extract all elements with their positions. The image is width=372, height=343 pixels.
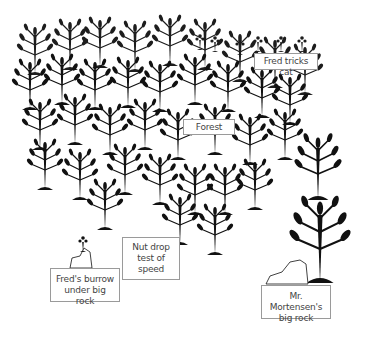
freds-rock	[70, 248, 92, 268]
label-line: Mr. Mortensen's	[265, 291, 327, 313]
label-line: big rock	[265, 313, 327, 324]
label-fred-tricks-cat: Fred tricks cat	[254, 53, 318, 70]
label-nut-drop: Nut drop test of speed	[122, 237, 180, 280]
label-line: under big rock	[54, 285, 116, 307]
label-forest: Forest	[183, 119, 235, 135]
label-text: Forest	[196, 122, 222, 132]
label-line: speed	[126, 264, 176, 275]
mortensen-rock	[266, 260, 308, 284]
label-freds-burrow: Fred's burrow under big rock	[50, 268, 120, 302]
label-line: test of	[126, 253, 176, 264]
label-line: Nut drop	[126, 242, 176, 253]
label-mortensen-rock: Mr. Mortensen's big rock	[261, 285, 331, 319]
label-line: Fred's burrow	[54, 274, 116, 285]
